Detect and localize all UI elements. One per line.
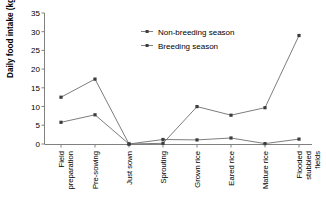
series-markers-breeding xyxy=(59,113,300,145)
svg-text:Sprouting: Sprouting xyxy=(159,151,168,184)
y-tick-label: 5 xyxy=(36,121,41,130)
svg-text:Grown rice: Grown rice xyxy=(193,151,202,188)
x-tick-label-flooded-stubbled-fields: Flooded stubbled fields xyxy=(295,151,322,180)
legend-label-breeding: Breeding season xyxy=(158,42,218,51)
series-line-breeding xyxy=(61,115,299,144)
svg-text:Field: Field xyxy=(57,151,66,167)
svg-text:Pre-sowing: Pre-sowing xyxy=(91,151,100,189)
x-tick-label-pre-sowing: Pre-sowing xyxy=(91,151,100,189)
svg-text:stubbled: stubbled xyxy=(304,151,313,180)
svg-text:preparation: preparation xyxy=(66,151,75,189)
y-tick-label: 20 xyxy=(31,65,40,74)
x-tick-label-just-sown: Just sown xyxy=(125,151,134,185)
svg-text:Flooded: Flooded xyxy=(295,151,304,178)
x-tick-label-sprouting: Sprouting xyxy=(159,151,168,184)
y-tick-label: 0 xyxy=(36,140,41,149)
x-tick-label-grown-rice: Grown rice xyxy=(193,151,202,188)
y-tick-label: 35 xyxy=(31,9,40,18)
y-tick-label: 15 xyxy=(31,84,40,93)
square-marker xyxy=(146,30,149,33)
svg-text:Just sown: Just sown xyxy=(125,151,134,185)
legend-label-non-breeding: Non-breeding season xyxy=(158,28,235,37)
chart-container: Daily food intake (kg/ha) 35 30 25 20 15… xyxy=(0,0,326,206)
x-axis-labels: Field preparation Pre-sowing Just sown S… xyxy=(57,151,322,190)
svg-text:Mature rice: Mature rice xyxy=(261,151,270,189)
square-marker xyxy=(146,44,149,47)
svg-text:fields: fields xyxy=(313,151,322,169)
y-tick-label: 25 xyxy=(31,46,40,55)
legend-entry-non-breeding: Non-breeding season xyxy=(141,28,235,37)
y-tick-label: 10 xyxy=(31,103,40,112)
x-tick-label-eared-rice: Eared rice xyxy=(227,151,236,186)
series-line-non-breeding xyxy=(61,36,299,145)
y-tick-label: 30 xyxy=(31,28,40,37)
x-tick-label-field-preparation: Field preparation xyxy=(57,151,75,189)
line-chart: Daily food intake (kg/ha) 35 30 25 20 15… xyxy=(0,0,326,206)
legend-entry-breeding: Breeding season xyxy=(141,42,218,51)
svg-text:Eared rice: Eared rice xyxy=(227,151,236,186)
y-axis-title: Daily food intake (kg/ha) xyxy=(6,0,15,78)
x-tick-label-mature-rice: Mature rice xyxy=(261,151,270,189)
series-markers-non-breeding xyxy=(59,34,300,146)
chart-legend: Non-breeding season Breeding season xyxy=(141,28,235,51)
y-axis-ticks: 35 30 25 20 15 10 5 0 xyxy=(31,9,40,149)
